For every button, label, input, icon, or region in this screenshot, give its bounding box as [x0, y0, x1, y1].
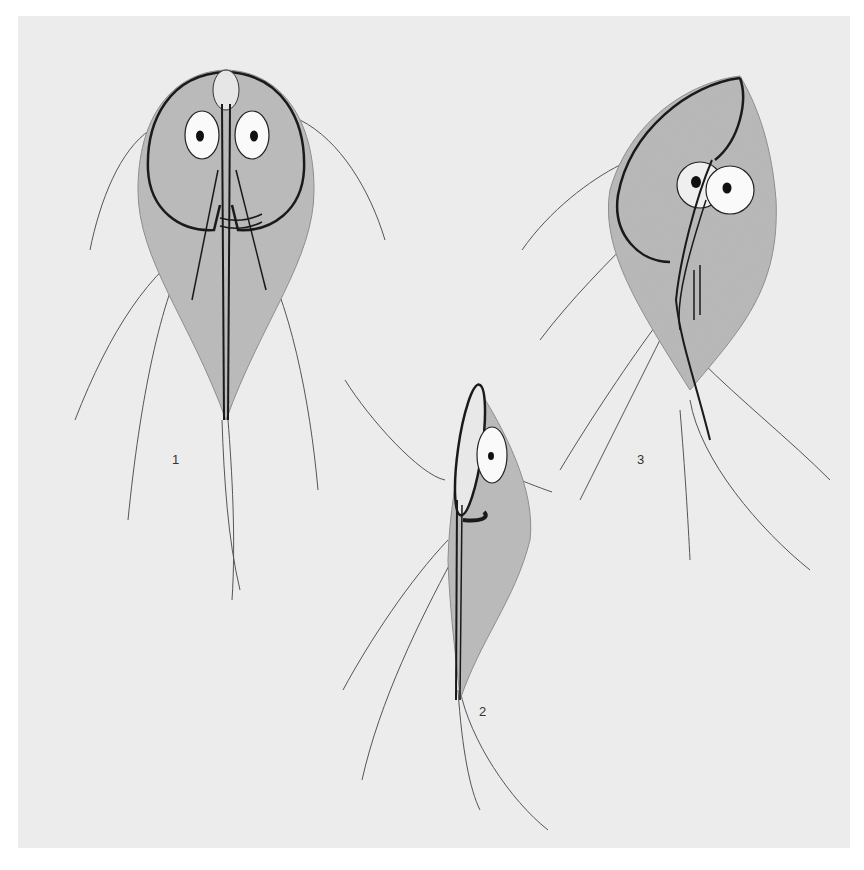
panel-label-2: 2	[479, 704, 486, 719]
panel-label-3: 3	[637, 452, 644, 467]
organism-1	[75, 70, 385, 600]
organism-2	[343, 380, 552, 830]
figure-plate: 1 2 3	[0, 0, 864, 870]
illustration	[0, 0, 864, 870]
organism-3	[522, 76, 830, 570]
panel-label-1: 1	[172, 452, 179, 467]
